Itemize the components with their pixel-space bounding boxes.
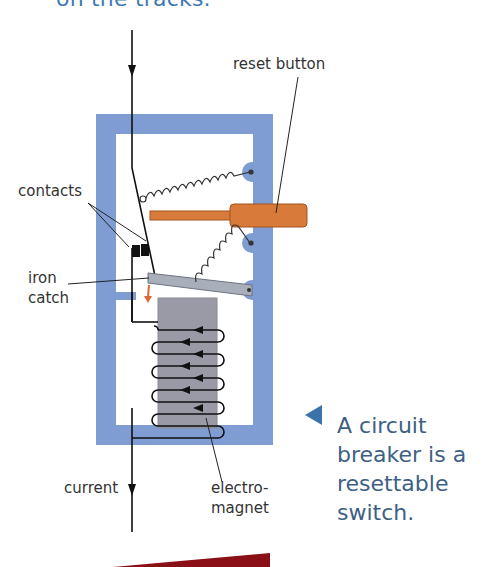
contacts [132,244,149,257]
label-iron-catch-1: iron [28,268,57,288]
bottom-band [113,553,270,567]
force-arrow-icon [144,285,152,303]
label-electromagnet-1: electro- [211,478,268,498]
upper-spring [140,170,253,202]
lower-spring [196,225,253,282]
iron-catch [148,273,252,296]
reset-button [150,204,307,227]
label-contacts: contacts [18,181,82,201]
label-iron-catch-2: catch [28,288,69,308]
label-current: current [64,478,118,498]
current-arrow-bottom-icon [128,484,136,496]
triangle-left-icon [305,405,322,425]
figure-caption: A circuit breaker is a resettable switch… [337,411,487,527]
current-arrow-top-icon [128,65,136,77]
label-electromagnet-2: magnet [211,498,269,518]
label-reset-button: reset button [233,54,325,74]
